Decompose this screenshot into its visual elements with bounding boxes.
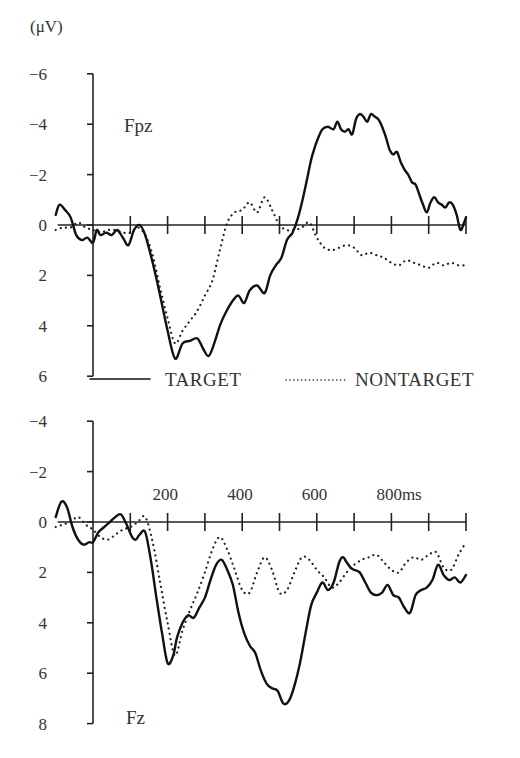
x-tick-label: 200 xyxy=(153,485,179,504)
fz-panel: Fz −4−202468 200400600800ms xyxy=(29,412,466,733)
x-tick-label: 800ms xyxy=(376,485,421,504)
y-tick-label: 4 xyxy=(39,614,48,633)
legend-label-nontarget: NONTARGET xyxy=(355,369,474,390)
channel-label-fpz: Fpz xyxy=(124,115,153,136)
x-tick-label: 400 xyxy=(227,485,253,504)
channel-label-fz: Fz xyxy=(126,707,145,728)
y-unit-label: (μV) xyxy=(30,17,63,36)
y-tick-label: 0 xyxy=(39,216,48,235)
y-tick-label: −6 xyxy=(29,65,47,84)
y-tick-label: 6 xyxy=(39,367,48,386)
series-target-fpz xyxy=(56,114,466,359)
y-tick-label: 6 xyxy=(39,664,48,683)
erp-chart: (μV) Fpz −6−4−20246 TARGET NONTARGET Fz … xyxy=(0,0,520,758)
series-target-fz xyxy=(56,501,466,704)
x-axis-ticks-bottom: 200400600800ms xyxy=(130,485,466,531)
legend-label-target: TARGET xyxy=(165,369,241,390)
y-tick-label: 8 xyxy=(39,715,48,734)
y-tick-label: 2 xyxy=(39,266,48,285)
legend: TARGET NONTARGET xyxy=(90,369,474,390)
y-tick-label: −4 xyxy=(29,115,48,134)
y-tick-label: 2 xyxy=(39,563,48,582)
y-tick-label: −2 xyxy=(29,463,47,482)
series-nontarget-fz xyxy=(56,516,466,656)
y-tick-label: 0 xyxy=(39,513,48,532)
series-nontarget-fpz xyxy=(56,197,466,343)
y-tick-label: 4 xyxy=(39,317,48,336)
y-tick-label: −4 xyxy=(29,412,48,431)
y-axis-ticks-bottom: −4−202468 xyxy=(29,412,93,733)
fpz-panel: (μV) Fpz −6−4−20246 xyxy=(29,17,466,386)
y-tick-label: −2 xyxy=(29,166,47,185)
x-tick-label: 600 xyxy=(302,485,328,504)
